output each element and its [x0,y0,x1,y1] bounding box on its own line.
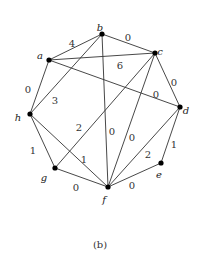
edge-weight-a-c: 6 [117,60,123,71]
edge-weight-a-b: 4 [69,38,75,49]
figure-caption: (b) [93,239,107,250]
node-label-a: a [37,50,43,61]
node-labels-group: abcdefgh [15,22,189,205]
node-label-c: c [157,46,163,57]
edge-weight-d-e: 1 [171,139,177,150]
edge-d-f [108,107,180,187]
edge-weight-e-f: 0 [129,180,135,191]
edge-weight-a-h: 0 [25,84,31,95]
node-a [46,57,51,62]
edges-group [30,34,180,187]
edge-weight-g-f: 0 [73,182,79,193]
edge-weight-c-g: 2 [76,122,82,133]
edge-weight-h-f: 1 [81,154,87,165]
node-g [52,165,57,170]
node-label-d: d [183,105,189,116]
edge-weight-a-d: 0 [153,89,159,100]
edge-weight-c-f: 0 [129,132,135,143]
edge-h-g [30,114,55,168]
edge-c-f [108,53,155,187]
edge-b-h [30,34,102,114]
edge-weight-c-d: 0 [171,77,177,88]
node-e [158,160,163,165]
node-label-b: b [97,22,103,33]
node-label-h: h [15,112,21,123]
edge-a-c [49,53,155,60]
weighted-graph-diagram: 4060003020210110 abcdefgh (b) [0,0,200,268]
node-f [105,184,110,189]
edge-a-b [49,34,102,60]
edge-a-h [30,60,49,114]
edge-weight-b-f: 0 [109,126,115,137]
node-h [27,111,32,116]
edge-d-e [161,107,180,163]
edge-weight-h-g: 1 [30,145,36,156]
node-label-g: g [41,172,47,183]
node-label-e: e [156,169,162,180]
edge-c-g [55,53,155,168]
edge-weight-b-c: 0 [125,32,131,43]
edge-g-f [55,168,108,187]
edge-weight-d-f: 2 [145,149,151,160]
node-label-f: f [101,194,108,205]
edge-weight-b-h: 3 [52,95,58,106]
